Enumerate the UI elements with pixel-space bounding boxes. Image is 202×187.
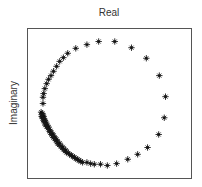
- star-marker-icon: [143, 55, 149, 61]
- y-axis-label: Imaginary: [8, 81, 19, 125]
- star-marker-icon: [73, 45, 79, 51]
- star-marker-icon: [125, 156, 131, 162]
- star-marker-icon: [112, 38, 118, 44]
- plot-frame: [28, 29, 192, 179]
- star-marker-icon: [65, 50, 71, 56]
- star-marker-icon: [95, 38, 101, 44]
- star-marker-icon: [156, 131, 162, 137]
- star-marker-icon: [134, 151, 140, 157]
- star-marker-icon: [104, 162, 110, 168]
- star-marker-icon: [156, 72, 162, 78]
- chart-title: Real: [99, 7, 120, 18]
- star-marker-icon: [144, 144, 150, 150]
- star-marker-icon: [128, 45, 134, 51]
- scatter-chart: Real Imaginary: [0, 0, 202, 187]
- star-marker-icon: [53, 63, 59, 69]
- star-marker-icon: [161, 115, 167, 121]
- star-marker-icon: [162, 93, 168, 99]
- star-marker-icon: [40, 100, 46, 106]
- data-markers: [38, 38, 169, 168]
- star-marker-icon: [84, 41, 90, 47]
- star-marker-icon: [97, 161, 103, 167]
- star-marker-icon: [113, 160, 119, 166]
